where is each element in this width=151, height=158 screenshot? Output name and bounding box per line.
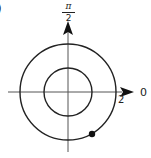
fraction-denominator: 2 xyxy=(62,14,75,23)
corner-label: ) xyxy=(0,2,2,16)
polar-plot-svg xyxy=(0,0,151,158)
label-zero-angle: 0 xyxy=(140,87,147,98)
point-marker xyxy=(89,131,95,137)
polar-diagram: ) π 2 0 2 xyxy=(0,0,151,158)
label-pi-over-2: π 2 xyxy=(62,2,75,23)
label-radius-2: 2 xyxy=(118,95,124,105)
fraction-numerator: π xyxy=(62,2,75,11)
